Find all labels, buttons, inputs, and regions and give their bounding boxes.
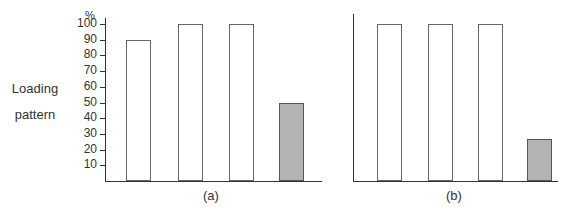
y-tick: [100, 24, 105, 25]
bar: [279, 103, 304, 182]
y-tick-label: 100: [71, 16, 97, 30]
bar: [478, 24, 503, 181]
y-tick-label: 80: [71, 47, 97, 61]
y-tick-label: 40: [71, 110, 97, 124]
bar: [377, 24, 402, 181]
bar: [178, 24, 203, 181]
panel-label-b: (b): [446, 188, 462, 203]
x-axis: [105, 181, 322, 182]
bar: [126, 40, 151, 181]
y-tick: [100, 71, 105, 72]
y-axis-title-line2: pattern: [0, 102, 70, 128]
y-tick: [100, 87, 105, 88]
y-axis-title-line1: Loading: [0, 76, 70, 102]
y-axis: [353, 14, 354, 182]
bar: [428, 24, 453, 181]
panel-label-a: (a): [203, 188, 219, 203]
y-tick: [100, 103, 105, 104]
x-axis: [353, 181, 558, 182]
y-tick: [100, 134, 105, 135]
y-axis-title: Loading pattern: [0, 76, 70, 128]
bar: [527, 139, 552, 181]
y-tick: [100, 118, 105, 119]
y-axis: [105, 18, 106, 182]
y-tick: [100, 40, 105, 41]
y-tick-label: 50: [71, 95, 97, 109]
y-tick: [100, 165, 105, 166]
y-tick-label: 90: [71, 32, 97, 46]
y-tick: [100, 150, 105, 151]
y-tick-label: 60: [71, 79, 97, 93]
y-tick: [100, 55, 105, 56]
y-tick-label: 30: [71, 126, 97, 140]
y-tick-label: 20: [71, 142, 97, 156]
y-tick-label: 10: [71, 157, 97, 171]
y-tick-label: 70: [71, 63, 97, 77]
bar: [229, 24, 254, 181]
